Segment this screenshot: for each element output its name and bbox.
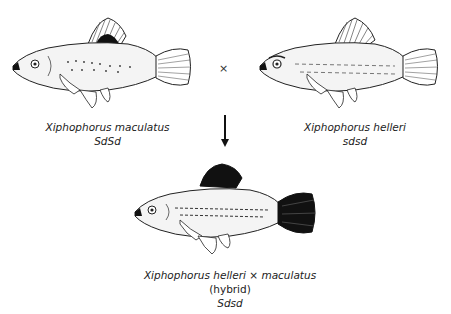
species-name-maculatus: Xiphophorus maculatus [20, 120, 195, 134]
genotype-maculatus: SdSd [20, 134, 195, 148]
down-arrow-icon [221, 115, 229, 147]
species-name-hybrid: Xiphophorus helleri × maculatus [120, 268, 340, 282]
fish-hybrid-illustration [130, 160, 320, 260]
hybrid-note: (hybrid) [120, 282, 340, 296]
fish-helleri-illustration [255, 14, 440, 114]
label-maculatus: Xiphophorus maculatus SdSd [20, 120, 195, 148]
hybrid-species-left: Xiphophorus helleri [144, 269, 246, 281]
genotype-hybrid: Sdsd [120, 296, 340, 310]
genotype-helleri: sdsd [280, 134, 430, 148]
fish-maculatus-illustration [8, 14, 193, 114]
species-name-helleri: Xiphophorus helleri [280, 120, 430, 134]
label-hybrid: Xiphophorus helleri × maculatus (hybrid)… [120, 268, 340, 310]
hybrid-species-right: maculatus [261, 269, 316, 281]
cross-symbol: × [219, 62, 228, 75]
label-helleri: Xiphophorus helleri sdsd [280, 120, 430, 148]
hybrid-cross-symbol: × [249, 269, 258, 281]
